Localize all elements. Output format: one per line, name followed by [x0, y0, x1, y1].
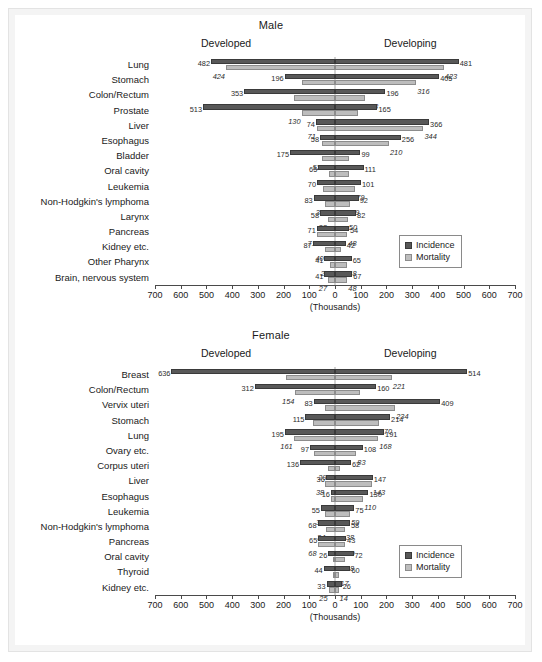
bar-value-label: 636	[158, 370, 170, 377]
bar-value-label: 36	[317, 476, 325, 483]
bar-value-label: 41	[315, 257, 323, 264]
bar-value-label: 175	[277, 151, 289, 158]
axis-tick-label: 700	[147, 290, 162, 300]
category-label: Vervix uteri	[102, 398, 149, 411]
bar-developing-mortality: 14	[335, 587, 339, 592]
bar-developing-mortality: 316	[335, 80, 416, 85]
bar-value-label: 26	[343, 583, 351, 590]
bar-developed-mortality: 52	[322, 156, 335, 161]
bar-developing-incidence: 60	[335, 566, 350, 571]
bar-developing-mortality: 40	[335, 542, 345, 547]
legend-male: Incidence Mortality	[399, 235, 462, 268]
axis-tick	[258, 595, 259, 599]
category-label: Stomach	[112, 414, 150, 427]
axis-tick	[438, 595, 439, 599]
bar-developing-incidence: 75	[335, 505, 354, 510]
bar-developed-mortality: 39	[325, 201, 335, 206]
category-label: Corpus uteri	[97, 459, 149, 472]
bar-developed-mortality: 424	[226, 65, 335, 70]
axis-tick	[232, 595, 233, 599]
bar-developed-incidence: 58	[320, 135, 335, 140]
bar-value-label: 481	[460, 60, 472, 67]
category-label: Thyroid	[117, 565, 149, 578]
bar-value-label: 70	[308, 181, 316, 188]
axis-tick	[181, 285, 182, 289]
bar-developing-incidence: 130	[335, 490, 368, 495]
bar-value-label: 65	[353, 257, 361, 264]
region-label-developing-female: Developing	[384, 347, 437, 359]
bar-developed-mortality: 71	[317, 126, 335, 131]
bar-developed-incidence: 353	[244, 89, 335, 94]
category-label: Oral cavity	[104, 550, 149, 563]
bar-value-label: 83	[304, 400, 312, 407]
bar-developed-mortality: 68	[318, 542, 335, 547]
bar-developed-incidence: 33	[327, 581, 335, 586]
bar-row: Leukemia704610179	[155, 179, 515, 194]
axis-tick-label: 200	[379, 600, 394, 610]
bar-developed-incidence: 68	[318, 520, 335, 525]
bar-value-label: 72	[355, 552, 363, 559]
bar-developing-mortality: 21	[335, 466, 340, 471]
bar-value-label: 482	[198, 60, 210, 67]
category-label: Non-Hodgkin's lymphoma	[41, 520, 149, 533]
bar-developing-incidence: 54	[335, 226, 349, 231]
bar-value-label: 111	[365, 166, 376, 173]
bar-row: Larynx58288250	[155, 209, 515, 224]
bar-developing-incidence: 58	[335, 520, 350, 525]
bar-developing-incidence: 43	[335, 536, 346, 541]
bar-developing-incidence: 256	[335, 135, 401, 140]
bar-developing-incidence: 514	[335, 369, 467, 374]
bar-developing-incidence: 196	[335, 89, 385, 94]
bar-developing-incidence: 42	[335, 241, 346, 246]
axis-tick	[386, 595, 387, 599]
bar-value-label: 41	[315, 273, 323, 280]
axis-tick	[361, 285, 362, 289]
axis-tick	[489, 595, 490, 599]
bar-developed-incidence: 195	[285, 429, 335, 434]
axis-tick-label: 100	[302, 290, 317, 300]
bar-developed-incidence: 65	[318, 165, 335, 170]
bar-developing-incidence: 67	[335, 271, 352, 276]
bar-developed-mortality: 161	[294, 436, 335, 441]
bar-developing-incidence: 101	[335, 180, 361, 185]
bar-developed-incidence: 41	[324, 256, 335, 261]
bar-developing-incidence: 160	[335, 384, 376, 389]
category-label: Lung	[128, 429, 149, 442]
bar-value-label: 160	[377, 385, 389, 392]
bar-developing-incidence: 366	[335, 119, 429, 124]
bar-developing-mortality: 79	[335, 186, 355, 191]
bar-value-label: 16	[322, 491, 330, 498]
legend-female: Incidence Mortality	[399, 545, 462, 578]
category-label: Non-Hodgkin's lymphoma	[41, 195, 149, 208]
bar-value-label: 26	[319, 552, 327, 559]
plot-area-male: Lung482424481423Stomach196129405316Colon…	[155, 57, 515, 315]
bar-developing-mortality: 59	[335, 511, 350, 516]
bar-row: Bladder175529956	[155, 148, 515, 163]
bar-developing-mortality: 48	[335, 262, 347, 267]
bar-developed-mortality: 130	[302, 110, 335, 115]
bar-value-label: 353	[231, 90, 243, 97]
axis-tick	[464, 285, 465, 289]
category-label: Esophagus	[101, 134, 149, 147]
bar-developing-mortality: 96	[335, 390, 360, 395]
bar-row: Stomach196129405316	[155, 72, 515, 87]
legend-swatch-incidence-icon	[405, 552, 412, 559]
axis-tick-label: 400	[225, 290, 240, 300]
bar-developed-mortality: 129	[302, 80, 335, 85]
axis-tick	[515, 595, 516, 599]
bar-developed-mortality: 190	[286, 375, 335, 380]
bar-value-label: 256	[402, 136, 414, 143]
bar-value-label: 214	[391, 416, 403, 423]
bar-row: Lung482424481423	[155, 57, 515, 72]
axis-tick	[206, 595, 207, 599]
bar-row: Kidney etc.33252614	[155, 580, 515, 595]
axis-tick	[284, 285, 285, 289]
bar-developed-incidence: 83	[314, 195, 335, 200]
bar-developing-mortality: 423	[335, 65, 444, 70]
bar-value-label: 60	[351, 567, 359, 574]
bar-developed-mortality: 34	[326, 527, 335, 532]
axis-tick-label: 700	[147, 600, 162, 610]
legend-swatch-incidence-icon	[405, 242, 412, 249]
category-label: Esophagus	[101, 490, 149, 503]
bar-developing-mortality: 221	[335, 375, 392, 380]
